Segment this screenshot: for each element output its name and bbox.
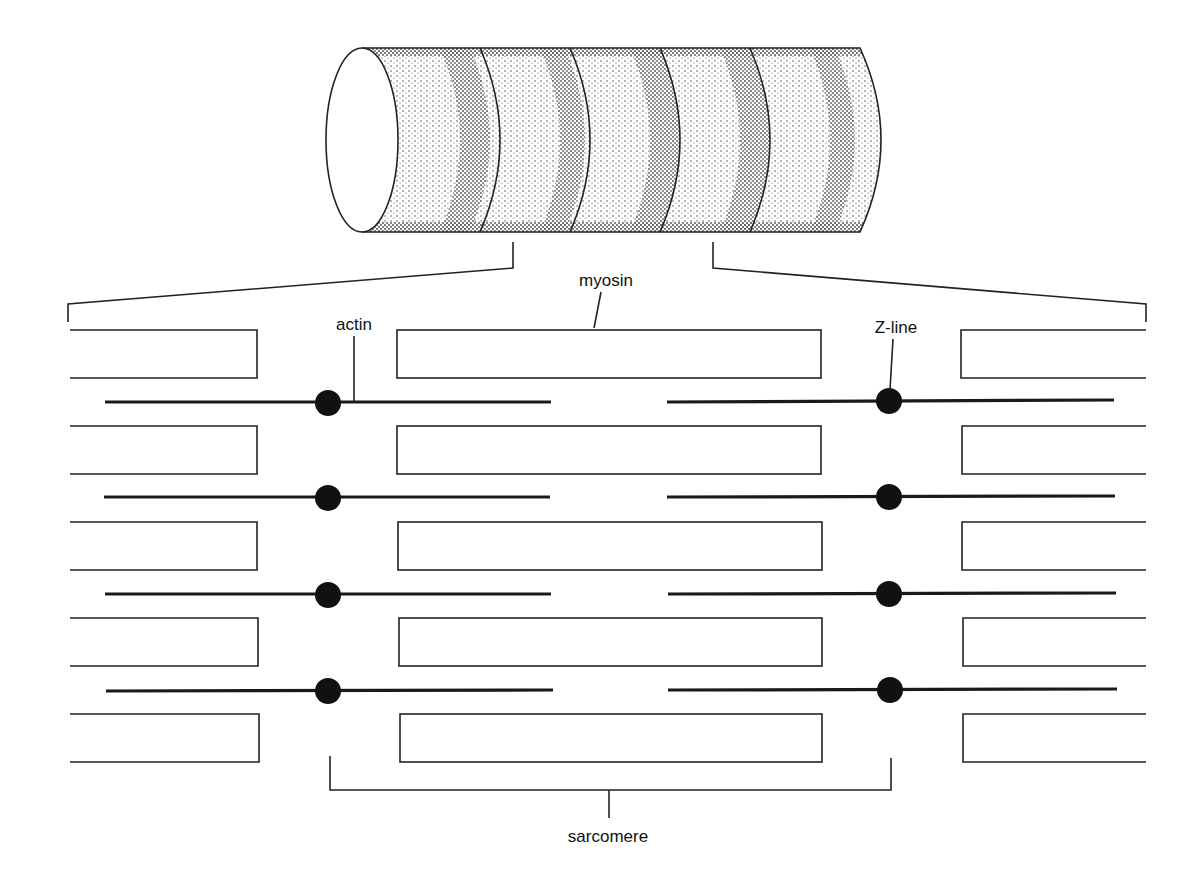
right-myosin-stubs xyxy=(961,330,1146,762)
actin-label: actin xyxy=(336,315,372,334)
zline-label: Z-line xyxy=(875,318,918,337)
sarcomere-bracket xyxy=(330,756,891,818)
muscle-fiber xyxy=(326,40,910,240)
zline-pointer xyxy=(890,339,893,390)
actin-filaments xyxy=(104,400,1117,691)
myosin-filaments xyxy=(397,330,822,762)
myosin-label: myosin xyxy=(579,271,633,290)
z-line-discs xyxy=(315,388,903,704)
left-myosin-stubs xyxy=(70,330,259,762)
sarcomere-label: sarcomere xyxy=(568,827,648,846)
sarcomere-diagram: myosin actin Z-line sarcomere xyxy=(0,0,1204,892)
myosin-pointer xyxy=(594,292,601,328)
